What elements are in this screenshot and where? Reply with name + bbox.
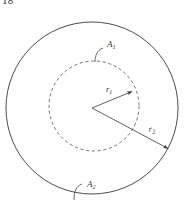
inner-circle-dashed [49, 61, 139, 151]
label-a1: A1 [106, 39, 116, 50]
label-a1-subscript: 1 [113, 44, 116, 50]
label-a2-subscript: 2 [93, 184, 96, 190]
annulus-diagram: A1 A2 r1 r2 [0, 0, 187, 200]
figure-page: 18 A1 A2 r1 r2 [0, 0, 187, 200]
label-r1-subscript: 1 [109, 89, 112, 95]
label-r2: r2 [148, 123, 156, 135]
a1-leader-line [95, 48, 103, 62]
outer-radius-arrow [92, 108, 168, 149]
a2-leader-line [74, 184, 82, 200]
label-r2-subscript: 2 [152, 128, 156, 134]
label-r1: r1 [106, 84, 112, 95]
label-a2: A2 [86, 179, 96, 190]
